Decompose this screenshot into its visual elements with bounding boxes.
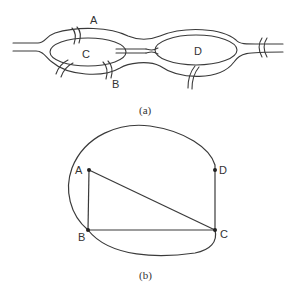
label-c: C bbox=[82, 48, 90, 60]
label-a-top: A bbox=[90, 14, 98, 26]
bridge-4 bbox=[188, 66, 199, 89]
bridge-2 bbox=[56, 60, 73, 77]
node-label-c: C bbox=[220, 228, 228, 240]
konigsberg-diagram: A C B D (a) A B C D (b) bbox=[0, 0, 296, 293]
node-b bbox=[86, 228, 90, 232]
edge-b-d-curve bbox=[69, 125, 215, 230]
label-b: B bbox=[112, 78, 119, 90]
label-d: D bbox=[194, 45, 202, 57]
caption-a: (a) bbox=[139, 104, 152, 117]
figure-a-river bbox=[13, 27, 283, 89]
node-c bbox=[213, 228, 217, 232]
figure-b-graph bbox=[69, 125, 217, 255]
node-label-b: B bbox=[78, 231, 85, 243]
edge-a-c bbox=[89, 170, 215, 230]
edge-b-c-curve bbox=[88, 230, 216, 256]
caption-b: (b) bbox=[139, 269, 152, 282]
edge-a-b bbox=[88, 170, 89, 230]
bridge-1 bbox=[72, 27, 80, 44]
node-label-d: D bbox=[219, 164, 227, 176]
node-d bbox=[213, 168, 217, 172]
node-a bbox=[87, 168, 91, 172]
node-label-a: A bbox=[75, 164, 83, 176]
bridge-5 bbox=[259, 38, 267, 57]
